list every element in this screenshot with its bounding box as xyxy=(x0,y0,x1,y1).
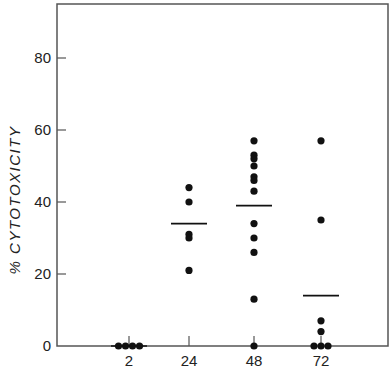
data-point xyxy=(310,342,317,349)
y-axis-label: % CYTOTOXICITY xyxy=(6,126,23,275)
y-tick-label: 80 xyxy=(34,49,51,66)
data-point xyxy=(250,234,257,241)
y-tick-label: 0 xyxy=(43,337,51,354)
scatter-chart: 020406080 2244872 % CYTOTOXICITY xyxy=(0,0,391,386)
y-tick-label: 40 xyxy=(34,193,51,210)
data-point xyxy=(185,234,192,241)
x-tick-label: 72 xyxy=(313,352,330,369)
y-tick-label: 60 xyxy=(34,121,51,138)
data-point xyxy=(250,177,257,184)
data-point xyxy=(317,216,324,223)
data-point xyxy=(324,342,331,349)
data-point xyxy=(250,249,257,256)
y-tick-label: 20 xyxy=(34,265,51,282)
x-tick-label: 48 xyxy=(246,352,263,369)
data-point xyxy=(317,137,324,144)
data-point xyxy=(185,267,192,274)
data-point xyxy=(250,188,257,195)
data-point xyxy=(250,137,257,144)
plot-frame xyxy=(57,4,388,346)
x-tick-label: 2 xyxy=(125,352,133,369)
data-point xyxy=(185,198,192,205)
x-tick-label: 24 xyxy=(181,352,198,369)
x-axis: 2244872 xyxy=(125,336,330,369)
data-point xyxy=(250,162,257,169)
data-point xyxy=(250,220,257,227)
data-point xyxy=(250,342,257,349)
data-point xyxy=(250,296,257,303)
data-point xyxy=(250,155,257,162)
data-point xyxy=(317,342,324,349)
data-point xyxy=(317,317,324,324)
data-point xyxy=(317,328,324,335)
data-point xyxy=(185,184,192,191)
plot-border xyxy=(57,4,388,346)
y-axis: 020406080 xyxy=(34,49,66,354)
data-points xyxy=(111,137,339,349)
